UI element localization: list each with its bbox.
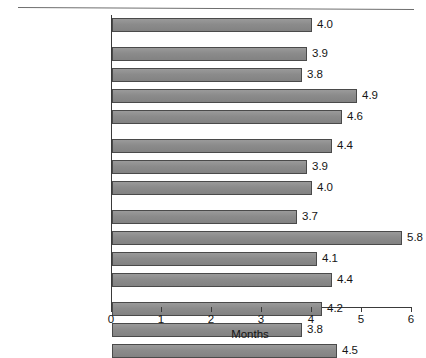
x-axis-tick-label: 1 (146, 313, 176, 325)
bar-value-label: 4.2 (327, 301, 343, 316)
x-axis-tick-label: 0 (96, 313, 126, 325)
bar-value-label: 4.4 (337, 272, 353, 287)
x-axis-tick (261, 307, 262, 312)
x-axis-tick (111, 307, 112, 312)
bar (112, 273, 332, 287)
bar (112, 231, 402, 245)
bar (112, 344, 337, 358)
bar (112, 252, 317, 266)
x-axis-tick (361, 307, 362, 312)
bar-value-label: 4.1 (322, 251, 338, 266)
bar (112, 160, 307, 174)
bar (112, 181, 312, 195)
x-axis-tick-label: 3 (246, 313, 276, 325)
bar-value-label: 5.8 (407, 230, 423, 245)
x-axis-tick-label: 6 (396, 313, 426, 325)
x-axis-title: Months (200, 328, 300, 340)
bar-value-label: 3.9 (312, 159, 328, 174)
bar (112, 210, 297, 224)
bar-value-label: 3.7 (302, 209, 318, 224)
bar (112, 110, 342, 124)
bar-value-label: 4.9 (362, 88, 378, 103)
x-axis-tick (411, 307, 412, 312)
x-axis-tick-label: 4 (296, 313, 326, 325)
bar (112, 68, 302, 82)
x-axis-tick-label: 2 (196, 313, 226, 325)
bar (112, 89, 357, 103)
bar-value-label: 4.5 (342, 343, 358, 358)
bar-value-label: 4.0 (317, 180, 333, 195)
bar-value-label: 4.6 (347, 109, 363, 124)
x-axis-tick (211, 307, 212, 312)
x-axis-tick (311, 307, 312, 312)
x-axis-tick-label: 5 (346, 313, 376, 325)
bar-value-label: 3.8 (307, 67, 323, 82)
bar (112, 18, 312, 32)
bar (112, 139, 332, 153)
bar-value-label: 4.0 (317, 17, 333, 32)
bar (112, 47, 307, 61)
x-axis-tick (161, 307, 162, 312)
bar-value-label: 3.9 (312, 46, 328, 61)
bar-value-label: 4.4 (337, 138, 353, 153)
